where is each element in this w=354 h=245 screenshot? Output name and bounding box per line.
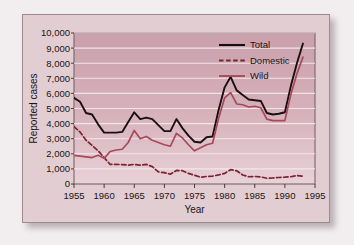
y-tick-label: 10,000 bbox=[41, 27, 70, 38]
legend-label-wild: Wild bbox=[250, 70, 268, 81]
chart-card: 01,0002,0003,0004,0005,0006,0007,0008,00… bbox=[22, 14, 330, 223]
y-tick-label: 4,000 bbox=[46, 118, 70, 129]
x-axis-ticks: 195519601965197019751980198519901995 bbox=[63, 184, 325, 201]
x-tick-label: 1960 bbox=[94, 190, 115, 201]
legend-label-domestic: Domestic bbox=[250, 55, 290, 66]
x-tick-label: 1975 bbox=[184, 190, 205, 201]
x-tick-label: 1970 bbox=[154, 190, 175, 201]
y-tick-label: 6,000 bbox=[46, 88, 70, 99]
x-axis-title: Year bbox=[184, 204, 205, 215]
y-tick-label: 1,000 bbox=[46, 163, 70, 174]
x-tick-label: 1995 bbox=[304, 190, 325, 201]
line-chart: 01,0002,0003,0004,0005,0006,0007,0008,00… bbox=[23, 15, 331, 224]
chart-root: 01,0002,0003,0004,0005,0006,0007,0008,00… bbox=[23, 15, 329, 222]
y-tick-label: 0 bbox=[65, 178, 70, 189]
x-tick-label: 1990 bbox=[274, 190, 295, 201]
x-tick-label: 1985 bbox=[244, 190, 265, 201]
legend-label-total: Total bbox=[250, 39, 270, 50]
x-tick-label: 1980 bbox=[214, 190, 235, 201]
y-axis-title: Reported cases bbox=[28, 73, 39, 143]
y-tick-label: 7,000 bbox=[46, 73, 70, 84]
y-tick-label: 8,000 bbox=[46, 58, 70, 69]
y-tick-label: 5,000 bbox=[46, 103, 70, 114]
y-tick-label: 9,000 bbox=[46, 43, 70, 54]
y-tick-label: 2,000 bbox=[46, 148, 70, 159]
y-tick-label: 3,000 bbox=[46, 133, 70, 144]
x-tick-label: 1955 bbox=[63, 190, 84, 201]
x-tick-label: 1965 bbox=[124, 190, 145, 201]
y-axis-ticks: 01,0002,0003,0004,0005,0006,0007,0008,00… bbox=[41, 27, 74, 189]
